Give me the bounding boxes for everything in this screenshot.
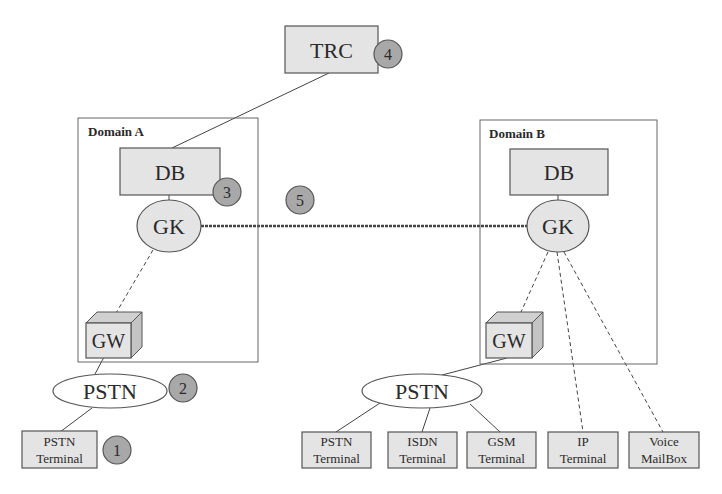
gw-b-node: GW — [486, 312, 543, 358]
trc-to-db-a-link — [172, 73, 329, 148]
badge-2: 2 — [169, 374, 197, 402]
connectors — [60, 73, 663, 432]
terminal-b0-line2: Terminal — [313, 451, 360, 466]
terminal-a-line1: PSTN — [44, 434, 76, 449]
isdn-terminal: ISDN Terminal — [388, 432, 457, 468]
pstn-terminal-a: PSTN Terminal — [22, 431, 97, 468]
domain-a-label: Domain A — [88, 124, 145, 139]
trc-node: TRC — [285, 26, 378, 73]
terminal-b2-line2: Terminal — [478, 451, 525, 466]
pstn-b-to-pstn-terminal-link — [336, 403, 380, 432]
pstn-b-to-isdn-terminal-link — [422, 408, 430, 432]
pstn-b-cloud: PSTN — [362, 374, 482, 408]
terminal-b1-line2: Terminal — [399, 451, 446, 466]
gw-b-to-pstn-b-link — [442, 358, 507, 375]
badge-5: 5 — [286, 186, 314, 214]
badge-3-label: 3 — [223, 184, 231, 201]
gsm-terminal: GSM Terminal — [467, 432, 536, 468]
terminal-a-line2: Terminal — [36, 451, 83, 466]
badge-4: 4 — [374, 40, 402, 68]
gk-a-to-gw-a-link — [116, 250, 153, 313]
badge-4-label: 4 — [384, 46, 392, 63]
gw-a-label: GW — [92, 330, 125, 352]
badge-5-label: 5 — [296, 192, 304, 209]
pstn-a-to-terminal-a-link — [60, 408, 92, 432]
network-diagram: TRC 4 Domain A DB GK GW 3 5 — [0, 0, 722, 494]
terminal-b4-line2: MailBox — [641, 451, 688, 466]
gk-b-node: GK — [527, 200, 589, 252]
domain-b-label: Domain B — [489, 126, 545, 141]
gw-a-node: GW — [86, 312, 142, 358]
trc-label: TRC — [310, 38, 353, 63]
domain-a: Domain A DB GK GW — [78, 118, 258, 362]
db-b-node: DB — [510, 149, 608, 195]
gk-a-node: GK — [137, 200, 201, 252]
gk-a-label: GK — [153, 214, 185, 239]
terminal-b3-line2: Terminal — [560, 451, 607, 466]
pstn-a-label: PSTN — [83, 379, 137, 404]
terminal-b3-line1: IP — [577, 434, 589, 449]
pstn-terminal-b: PSTN Terminal — [302, 432, 371, 468]
ip-terminal: IP Terminal — [548, 432, 618, 468]
terminal-b4-line1: Voice — [649, 434, 679, 449]
gw-a-to-pstn-a-link — [95, 357, 104, 374]
badge-3: 3 — [213, 178, 241, 206]
db-a-node: DB — [120, 148, 220, 195]
pstn-b-label: PSTN — [395, 379, 449, 404]
pstn-a-cloud: PSTN — [53, 374, 167, 408]
gk-b-to-gw-b-link — [521, 252, 548, 312]
voice-mailbox: Voice MailBox — [629, 432, 699, 468]
gk-b-label: GK — [542, 214, 574, 239]
db-b-label: DB — [544, 160, 575, 185]
terminal-b2-line1: GSM — [487, 434, 516, 449]
badge-1: 1 — [103, 436, 131, 464]
badge-1-label: 1 — [113, 442, 121, 459]
db-a-label: DB — [155, 160, 186, 185]
badge-2-label: 2 — [179, 380, 187, 397]
domain-b: Domain B DB GK GW — [480, 120, 657, 364]
pstn-b-to-gsm-terminal-link — [470, 404, 500, 432]
terminal-b1-line1: ISDN — [407, 434, 438, 449]
terminal-b0-line1: PSTN — [321, 434, 353, 449]
gw-b-label: GW — [492, 330, 525, 352]
